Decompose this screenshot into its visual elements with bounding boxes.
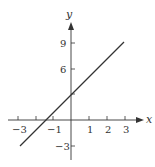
x-tick-label: −3: [12, 124, 27, 135]
x-tick-label: −1: [47, 124, 62, 135]
y-tick-label: 9: [60, 38, 66, 49]
x-ticks: [18, 116, 125, 120]
x-tick-label: 2: [105, 124, 111, 135]
y-tick-label: −3: [55, 141, 70, 152]
x-tick-label: 3: [123, 124, 129, 135]
chart-canvas: x y −3 −1 1 2 3 9 6 −3: [0, 0, 155, 167]
x-axis-label: x: [146, 113, 153, 126]
x-axis-arrow-icon: [136, 117, 144, 123]
y-axis-arrow-icon: [68, 22, 74, 30]
x-tick-label: 1: [87, 124, 93, 135]
y-axis-label: y: [65, 8, 73, 21]
y-tick-label: 6: [60, 64, 66, 75]
